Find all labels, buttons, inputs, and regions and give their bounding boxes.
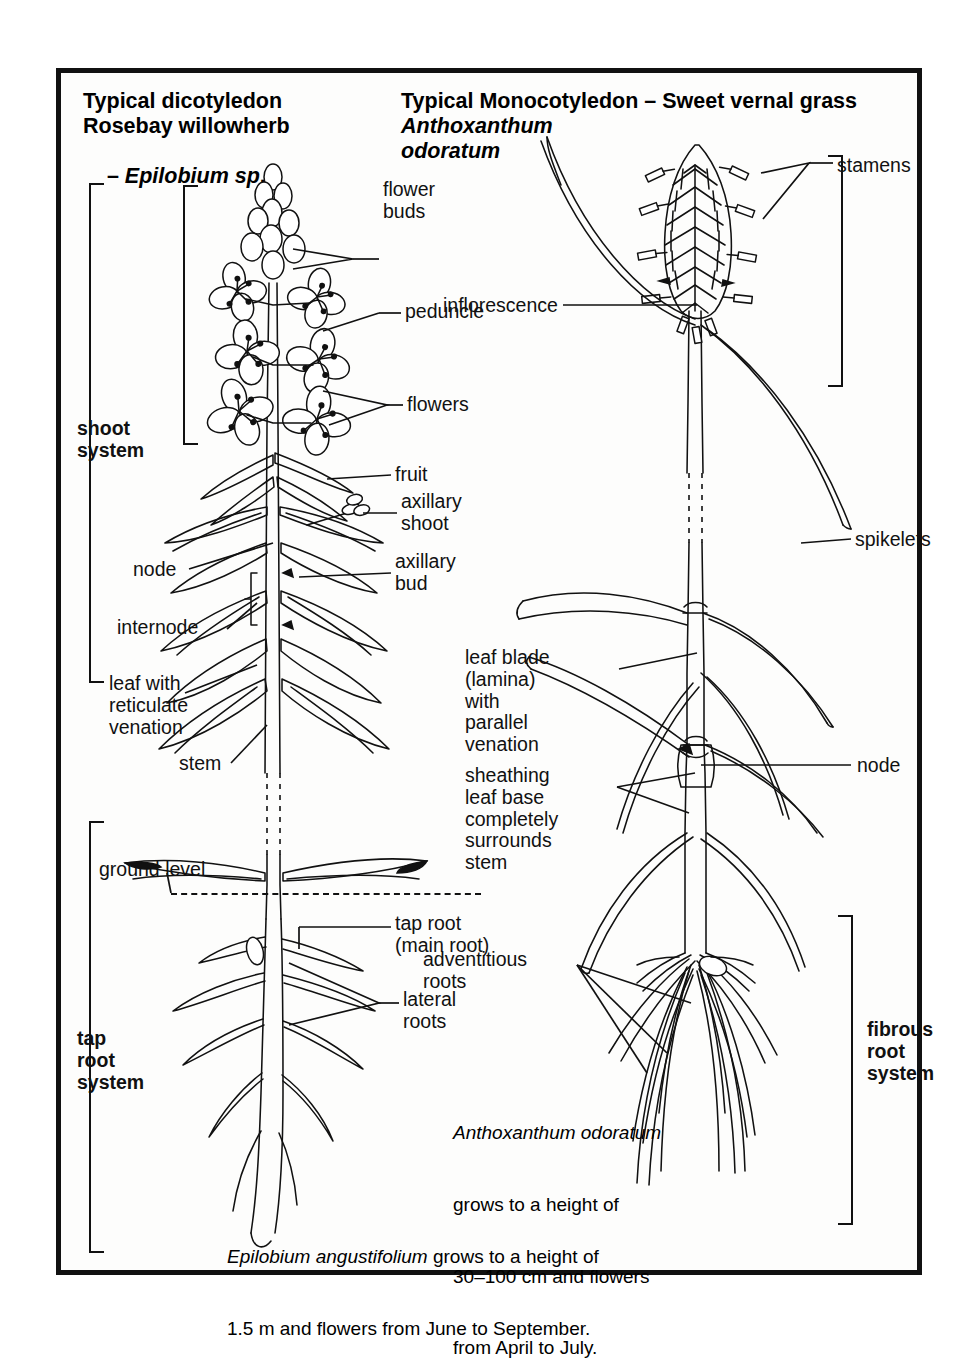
diagram-frame: Typical dicotyledon Rosebay willowherb –… <box>56 68 922 1275</box>
left-caption-line1: Epilobium angustifolium grows to a heigh… <box>227 1245 599 1269</box>
inflorescence-label-right: inflorescence <box>443 295 558 317</box>
left-caption-line2: 1.5 m and flowers from June to September… <box>227 1317 599 1341</box>
left-plant-caption: Epilobium angustifolium grows to a heigh… <box>227 1197 599 1362</box>
spikelets-label: spikelets <box>855 529 931 551</box>
stamens-label: stamens <box>837 155 911 177</box>
left-caption-rest: grows to a height of <box>428 1246 599 1267</box>
leaf-blade-label: leaf blade (lamina) with parallel venati… <box>465 647 550 756</box>
sheathing-leaf-base-label: sheathing leaf base completely surrounds… <box>465 765 558 874</box>
left-caption-binomial: Epilobium angustifolium <box>227 1246 428 1267</box>
right-caption-binomial: Anthoxanthum odoratum <box>453 1121 661 1145</box>
node-label-right: node <box>857 755 900 777</box>
adventitious-roots-label: adventitious roots <box>423 949 527 993</box>
